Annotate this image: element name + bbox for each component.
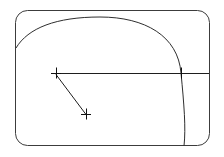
drawing-canvas (0, 0, 224, 157)
line-drawing-svg (0, 0, 224, 157)
rounded-rectangle-border (16, 11, 210, 146)
cross-marker-upper-left (51, 68, 61, 79)
diagonal-connector-line (56, 75, 86, 115)
large-elliptical-arc (16, 17, 185, 146)
